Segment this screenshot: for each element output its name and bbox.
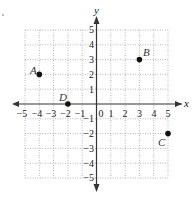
y-axis-arrow-down-icon xyxy=(94,184,100,192)
y-tick-label: 3 xyxy=(89,54,94,65)
y-tick-label: 1 xyxy=(89,84,94,95)
stray-mark xyxy=(2,14,4,16)
y-tick-label: 2 xyxy=(89,69,94,80)
y-axis-arrow-up-icon xyxy=(94,16,100,24)
coordinate-plane: y x −5 −4 −3 −2 −1 0 1 2 3 4 5 5 4 3 2 1… xyxy=(0,0,195,201)
point-c: C xyxy=(158,131,171,148)
x-axis-arrow-right-icon xyxy=(175,101,182,107)
point-c-label: C xyxy=(158,136,166,148)
x-tick-label: −5 xyxy=(17,108,28,119)
y-tick-label: 5 xyxy=(89,24,94,35)
x-tick-label: 3 xyxy=(137,108,142,119)
x-tick-label: 2 xyxy=(123,108,128,119)
x-axis-arrow-left-icon xyxy=(12,101,19,107)
x-tick-label: 4 xyxy=(152,108,157,119)
y-tick-label: −2 xyxy=(83,128,94,139)
point-c-marker xyxy=(165,131,171,137)
origin-label: 0 xyxy=(99,108,104,119)
x-tick-label: −2 xyxy=(60,108,71,119)
point-a-label: A xyxy=(29,64,37,76)
y-tick-label: 4 xyxy=(89,39,94,50)
y-tick-label: −3 xyxy=(83,143,94,154)
point-b-marker xyxy=(137,57,143,63)
y-axis-label: y xyxy=(93,4,99,16)
y-tick-label: −5 xyxy=(83,172,94,183)
point-d-label: D xyxy=(58,91,67,103)
x-tick-label: −3 xyxy=(46,108,57,119)
y-tick-label: −1 xyxy=(83,113,94,124)
point-a: A xyxy=(29,64,42,77)
point-b-label: B xyxy=(143,46,150,58)
y-tick-label: −4 xyxy=(83,158,94,169)
x-tick-label: −4 xyxy=(32,108,43,119)
x-tick-label: 1 xyxy=(109,108,114,119)
x-tick-label: 5 xyxy=(166,108,171,119)
point-a-marker xyxy=(37,72,43,78)
x-axis-label: x xyxy=(183,97,189,109)
